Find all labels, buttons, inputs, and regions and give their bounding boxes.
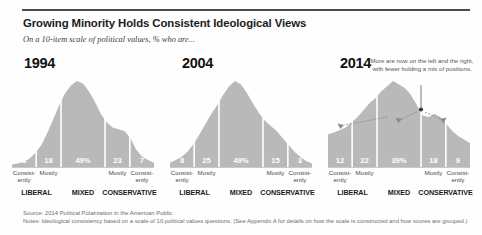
category-labels: Consist-entlyMostlyMostlyConsist-ently (8, 169, 158, 189)
panel-year-label: 2014 (340, 55, 371, 71)
group-labels: LIBERALMIXEDCONSERVATIVE (166, 188, 316, 200)
group-label-conservative: CONSERVATIVE (101, 188, 159, 197)
value-label: 3 (288, 155, 312, 167)
group-label-conservative: CONSERVATIVE (259, 188, 317, 197)
value-label: 49% (219, 155, 263, 167)
value-label: 7 (130, 155, 154, 167)
value-label: 23 (105, 155, 130, 167)
page-title: Growing Minority Holds Consistent Ideolo… (23, 17, 306, 29)
page-subtitle: On a 10-item scale of political values, … (23, 35, 195, 44)
value-label: 3 (12, 155, 36, 167)
category-labels: Consist-entlyMostlyMostlyConsist-ently (324, 169, 474, 189)
value-label: 8 (170, 155, 194, 167)
baseline-axis (170, 167, 312, 168)
value-label: 25 (194, 155, 219, 167)
source-note: Source: 2014 Political Polarization in t… (23, 210, 172, 216)
value-label: 15 (263, 155, 288, 167)
value-labels: 82549%153 (170, 155, 312, 167)
header-rule (22, 9, 470, 11)
value-label: 18 (36, 155, 61, 167)
chart-panel-2004: 2004 82549%153 Consist-entlyMostlyMostly… (166, 55, 316, 203)
group-label-liberal: LIBERAL (13, 188, 59, 197)
value-label: 18 (421, 155, 446, 167)
distribution-curve (166, 77, 316, 167)
category-label-consistently-conservative: Consist-ently (436, 169, 480, 184)
chart-panel-1994: 1994 31849%237 Consist-entlyMostlyMostly… (8, 55, 158, 203)
category-label-consistently-conservative: Consist-ently (120, 169, 164, 184)
value-label: 9 (446, 155, 470, 167)
value-label: 39% (377, 155, 421, 167)
group-labels: LIBERALMIXEDCONSERVATIVE (324, 188, 474, 200)
baseline-axis (328, 167, 470, 168)
value-label: 49% (61, 155, 105, 167)
annotation-text: More are now on the left and the right, … (368, 57, 476, 72)
category-labels: Consist-entlyMostlyMostlyConsist-ently (166, 169, 316, 189)
infographic-figure: Growing Minority Holds Consistent Ideolo… (0, 0, 482, 235)
group-label-conservative: CONSERVATIVE (417, 188, 475, 197)
category-label-consistently-conservative: Consist-ently (278, 169, 322, 184)
panel-year-label: 2004 (182, 55, 213, 71)
value-label: 22 (352, 155, 377, 167)
chart-panel-2014: 2014 More are now on the left and the ri… (324, 55, 474, 203)
methodology-note: Notes: Ideological consistency based on … (23, 218, 475, 225)
group-labels: LIBERALMIXEDCONSERVATIVE (8, 188, 158, 200)
category-label-mostly-liberal: Mostly (27, 169, 71, 176)
baseline-axis (12, 167, 154, 168)
value-labels: 122239%189 (328, 155, 470, 167)
group-label-mixed: MIXED (224, 188, 258, 197)
group-label-liberal: LIBERAL (329, 188, 375, 197)
panel-year-label: 1994 (24, 55, 55, 71)
category-label-mostly-liberal: Mostly (185, 169, 229, 176)
value-labels: 31849%237 (12, 155, 154, 167)
group-label-mixed: MIXED (66, 188, 100, 197)
category-label-mostly-liberal: Mostly (343, 169, 387, 176)
value-label: 12 (328, 155, 352, 167)
distribution-curve (8, 77, 158, 167)
group-label-mixed: MIXED (382, 188, 416, 197)
distribution-curve (324, 77, 474, 167)
group-label-liberal: LIBERAL (171, 188, 217, 197)
